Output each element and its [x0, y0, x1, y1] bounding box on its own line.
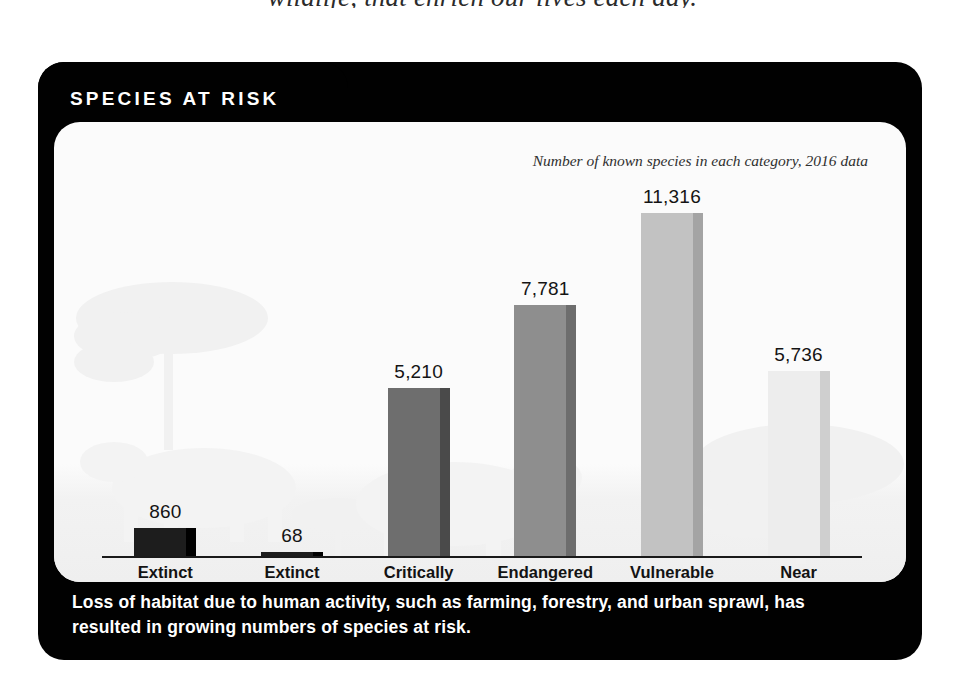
bar-value-label: 68 — [281, 525, 303, 547]
bar-side — [566, 305, 576, 556]
bar-side — [313, 552, 323, 556]
x-label-line1: Critically — [356, 562, 482, 582]
bar-slot-vulnerable[interactable]: 11,316 — [609, 186, 735, 556]
chart-panel: Number of known species in each category… — [54, 122, 906, 582]
bar-face — [134, 528, 186, 556]
bar-critically-endangered[interactable] — [388, 388, 450, 556]
bar-side — [186, 528, 196, 556]
x-label-line1: Extinct — [229, 562, 355, 582]
bar-extinct-in-the-wild[interactable] — [261, 552, 323, 556]
bar-face — [768, 371, 820, 556]
bar-value-label: 7,781 — [521, 278, 570, 300]
x-label-endangered: Endangered — [482, 562, 608, 582]
bar-face — [261, 552, 313, 556]
bar-slot-extinct[interactable]: 860 — [102, 186, 228, 556]
bar-extinct[interactable] — [134, 528, 196, 556]
x-axis-labels: Extinct Extinct in the wild Critically e… — [102, 562, 862, 582]
x-axis-line — [102, 556, 862, 558]
bar-slot-near-threatened[interactable]: 5,736 — [736, 186, 862, 556]
bar-side — [693, 213, 703, 556]
x-label-extinct-in-the-wild: Extinct in the wild — [229, 562, 355, 582]
bar-slot-endangered[interactable]: 7,781 — [482, 186, 608, 556]
bar-value-label: 5,210 — [394, 361, 443, 383]
bar-side — [820, 371, 830, 556]
bar-near-threatened[interactable] — [768, 371, 830, 556]
x-label-critically-endangered: Critically endangered — [356, 562, 482, 582]
x-label-line1: Extinct — [102, 562, 228, 582]
infographic-card: SPECIES AT RISK — [38, 62, 922, 660]
bar-face — [388, 388, 440, 556]
bar-group: 860 68 5,210 — [102, 186, 862, 556]
x-label-near-threatened: Near threatened — [736, 562, 862, 582]
bar-endangered[interactable] — [514, 305, 576, 556]
bar-face — [641, 213, 693, 556]
bar-value-label: 11,316 — [643, 186, 701, 208]
x-label-vulnerable: Vulnerable — [609, 562, 735, 582]
bar-vulnerable[interactable] — [641, 213, 703, 556]
x-label-line1: Vulnerable — [609, 562, 735, 582]
bar-side — [440, 388, 450, 556]
card-caption: Loss of habitat due to human activity, s… — [72, 590, 872, 640]
bar-value-label: 860 — [149, 501, 181, 523]
bar-slot-critically-endangered[interactable]: 5,210 — [356, 186, 482, 556]
bar-face — [514, 305, 566, 556]
x-label-line1: Near — [736, 562, 862, 582]
page-headline: wildlife, that enrich our lives each day… — [0, 0, 965, 8]
x-label-line1: Endangered — [482, 562, 608, 582]
page-title: SPECIES AT RISK — [70, 88, 280, 110]
bar-slot-extinct-in-the-wild[interactable]: 68 — [229, 186, 355, 556]
bar-value-label: 5,736 — [774, 344, 823, 366]
x-label-extinct: Extinct — [102, 562, 228, 582]
bar-chart: 860 68 5,210 — [54, 122, 906, 582]
